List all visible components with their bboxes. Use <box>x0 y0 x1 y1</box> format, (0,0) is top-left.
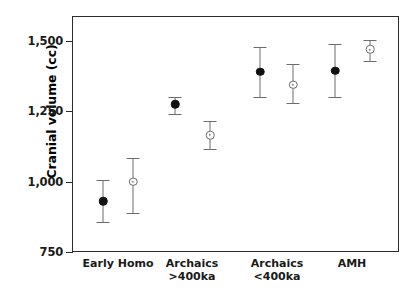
error-bar-cap-lower <box>287 103 300 104</box>
error-bar-cap-upper <box>287 64 300 65</box>
error-bar-cap-upper <box>127 158 140 159</box>
plot-area <box>72 16 399 252</box>
error-bar-cap-lower <box>329 97 342 98</box>
open-circle-marker <box>129 177 138 186</box>
y-tick-label: 750 <box>40 245 63 259</box>
error-bar-cap-upper <box>329 44 342 45</box>
error-bar-cap-upper <box>204 121 217 122</box>
x-axis-category-label: Archaics >400ka <box>166 258 219 283</box>
error-bar-cap-upper <box>169 97 182 98</box>
y-tick-mark <box>66 111 73 112</box>
error-bar-cap-upper <box>97 180 110 181</box>
error-bar-cap-lower <box>364 61 377 62</box>
y-tick-mark <box>66 41 73 42</box>
filled-circle-marker <box>171 100 180 109</box>
error-bar-cap-lower <box>254 97 267 98</box>
cranial-volume-chart: Cranial volume (cc) 1,5001,2501,000750 E… <box>0 0 411 297</box>
y-tick-label: 1,500 <box>28 34 63 48</box>
open-circle-marker <box>366 45 375 54</box>
y-tick-mark <box>66 252 73 253</box>
y-tick-mark <box>66 182 73 183</box>
y-tick-label: 1,000 <box>28 175 63 189</box>
x-axis-category-label: Archaics <400ka <box>251 258 304 283</box>
error-bar-cap-lower <box>127 213 140 214</box>
filled-circle-marker <box>99 197 108 206</box>
error-bar-cap-upper <box>364 40 377 41</box>
open-circle-marker <box>289 80 298 89</box>
error-bar-cap-lower <box>97 222 110 223</box>
figure-caption <box>8 286 403 296</box>
x-axis-category-label: AMH <box>338 258 367 271</box>
error-bar-cap-lower <box>204 149 217 150</box>
open-circle-marker <box>206 131 215 140</box>
y-tick-label: 1,250 <box>28 104 63 118</box>
error-bar-cap-upper <box>254 47 267 48</box>
filled-circle-marker <box>331 66 340 75</box>
x-axis-category-label: Early Homo <box>83 258 154 271</box>
error-bar-cap-lower <box>169 114 182 115</box>
filled-circle-marker <box>256 68 265 77</box>
